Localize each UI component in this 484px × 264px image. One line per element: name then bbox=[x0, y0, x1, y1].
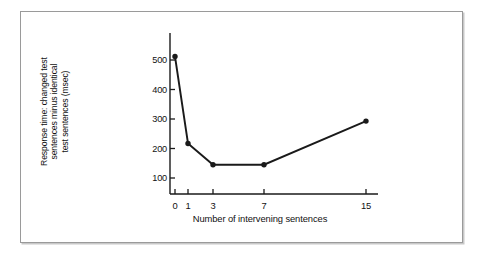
data-point-15 bbox=[363, 118, 368, 123]
data-point-0 bbox=[172, 54, 177, 59]
line-chart: Response time: changed test sentences mi… bbox=[0, 0, 484, 264]
plot-area bbox=[0, 0, 484, 264]
y-tick-label: 300 bbox=[141, 114, 167, 124]
x-tick-label-4: 15 bbox=[361, 200, 371, 211]
x-tick-marks bbox=[175, 189, 366, 194]
x-tick-label-3: 7 bbox=[261, 200, 266, 211]
y-tick-label: 100 bbox=[141, 173, 167, 183]
y-axis-title-line-3: test sentences (msec) bbox=[60, 12, 70, 212]
data-markers-series-0 bbox=[172, 54, 368, 168]
y-tick-label: 200 bbox=[141, 144, 167, 154]
data-point-7 bbox=[261, 162, 266, 167]
y-axis-title-line-2: sentences minus identical bbox=[50, 12, 60, 212]
y-tick-label: 400 bbox=[141, 85, 167, 95]
data-point-3 bbox=[210, 162, 215, 167]
data-point-1 bbox=[185, 141, 190, 146]
x-tick-label-0: 0 bbox=[172, 200, 177, 211]
x-tick-label-2: 3 bbox=[210, 200, 215, 211]
y-axis-title-line-1: Response time: changed test bbox=[39, 12, 49, 212]
y-axis-title: Response time: changed test sentences mi… bbox=[39, 12, 70, 212]
x-tick-label-1: 1 bbox=[185, 200, 190, 211]
x-axis-title: Number of intervening sentences bbox=[130, 213, 390, 224]
data-line-series-0 bbox=[175, 57, 366, 165]
y-tick-marks bbox=[170, 60, 175, 178]
y-tick-label: 500 bbox=[141, 55, 167, 65]
